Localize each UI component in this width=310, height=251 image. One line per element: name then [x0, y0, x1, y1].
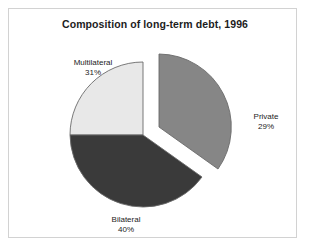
slice-label-private: Private 29%	[240, 112, 292, 132]
slice-label-multilateral-value: 31%	[58, 68, 128, 78]
slice-label-multilateral: Multilateral 31%	[58, 58, 128, 78]
slice-label-private-name: Private	[240, 112, 292, 122]
slice-label-bilateral-value: 40%	[95, 225, 157, 235]
pie-slice-bilateral[interactable]	[70, 135, 202, 207]
slice-label-multilateral-name: Multilateral	[58, 58, 128, 68]
pie-plot-area: Multilateral 31% Private 29% Bilateral 4…	[8, 8, 297, 238]
slice-label-bilateral-name: Bilateral	[95, 215, 157, 225]
pie-chart-figure: Composition of long-term debt, 1996 Mult…	[0, 0, 310, 251]
pie-slice-private[interactable]	[159, 54, 231, 169]
slice-label-bilateral: Bilateral 40%	[95, 215, 157, 235]
slice-label-private-value: 29%	[240, 122, 292, 132]
